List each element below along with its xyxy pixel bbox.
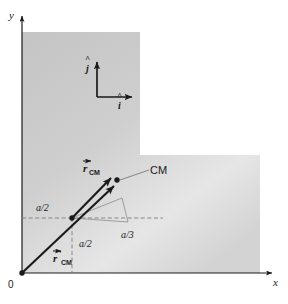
i-hat-label: i: [118, 100, 121, 111]
cm-prime-point: [69, 215, 74, 220]
r-cm-label: r: [83, 162, 88, 174]
y-axis-label: y: [8, 9, 14, 21]
origin-label: 0: [8, 279, 14, 290]
cm-point: [114, 177, 119, 182]
r-cm-prime-label: r: [53, 252, 58, 264]
cm-label: CM: [150, 164, 167, 176]
a-over-2-left-label: a/2: [36, 202, 49, 213]
l-shaped-plate: [22, 32, 260, 273]
figure-container: y x 0 ^ j ^ i r CM CM a/2 a/2 a/3 r ' CM: [0, 0, 288, 304]
origin-point: [19, 270, 24, 275]
diagram-canvas: y x 0 ^ j ^ i r CM CM a/2 a/2 a/3 r ' CM: [0, 0, 288, 304]
x-axis-label: x: [272, 276, 278, 288]
r-cm-subscript: CM: [89, 169, 100, 176]
r-cm-prime-mark: ': [59, 249, 62, 259]
figure-caption: [6, 292, 136, 303]
a-over-2-bottom-label: a/2: [79, 238, 92, 249]
a-over-3-label: a/3: [121, 229, 134, 240]
r-cm-prime-subscript: CM: [61, 259, 72, 266]
